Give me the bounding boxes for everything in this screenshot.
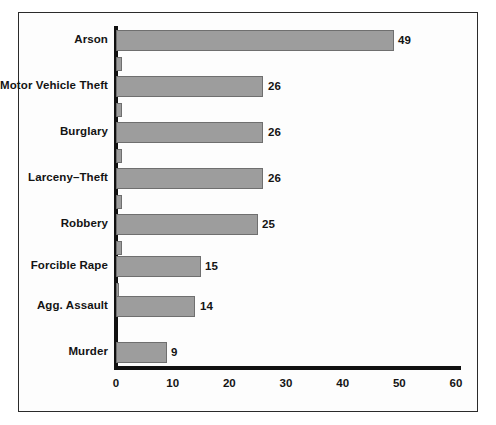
bar-robbery[interactable] (116, 214, 258, 235)
x-axis-tick-labels: 0 10 20 30 40 50 60 (0, 378, 496, 398)
bar-burglary[interactable] (116, 122, 263, 143)
bar-value-robbery: 25 (262, 219, 275, 231)
bar-motor-vehicle-theft-secondary[interactable] (116, 103, 122, 117)
bar-value-burglary: 26 (268, 127, 281, 139)
x-tick-0: 0 (113, 378, 119, 390)
bar-value-murder: 9 (171, 347, 178, 359)
category-axis-labels: Arson Motor Vehicle Theft Burglary Larce… (20, 0, 108, 425)
bar-larceny-theft[interactable] (116, 168, 263, 189)
x-axis-spine (114, 366, 461, 370)
bar-arson[interactable] (116, 30, 394, 51)
bar-value-arson: 49 (398, 35, 411, 47)
bar-forcible-rape[interactable] (116, 256, 201, 277)
bar-value-forcible-rape: 15 (205, 261, 218, 273)
x-tick-60: 60 (450, 378, 463, 390)
x-tick-10: 10 (166, 378, 179, 390)
bar-value-motor-vehicle-theft: 26 (268, 81, 281, 93)
category-label-burglary: Burglary (60, 126, 108, 138)
plot-area: 49 26 26 26 25 15 14 9 (116, 26, 456, 364)
x-tick-30: 30 (280, 378, 293, 390)
bar-value-agg-assault: 14 (200, 301, 213, 313)
bar-burglary-secondary[interactable] (116, 149, 122, 163)
bar-motor-vehicle-theft[interactable] (116, 76, 263, 97)
category-label-forcible-rape: Forcible Rape (31, 260, 108, 272)
chart-figure: Arson Motor Vehicle Theft Burglary Larce… (0, 0, 496, 425)
category-label-robbery: Robbery (61, 218, 108, 230)
bar-larceny-theft-secondary[interactable] (116, 195, 122, 209)
x-tick-20: 20 (223, 378, 236, 390)
x-tick-40: 40 (336, 378, 349, 390)
category-label-arson: Arson (74, 34, 108, 46)
bar-value-larceny-theft: 26 (268, 173, 281, 185)
category-label-murder: Murder (68, 346, 108, 358)
bar-arson-secondary[interactable] (116, 57, 122, 71)
bar-forcible-rape-secondary[interactable] (116, 283, 119, 297)
category-label-motor-vehicle-theft: Motor Vehicle Theft (0, 80, 108, 92)
category-label-agg-assault: Agg. Assault (37, 300, 108, 312)
bar-murder[interactable] (116, 342, 167, 363)
bar-robbery-secondary[interactable] (116, 241, 122, 255)
category-label-larceny-theft: Larceny–Theft (28, 172, 108, 184)
bar-agg-assault[interactable] (116, 296, 195, 317)
x-tick-50: 50 (393, 378, 406, 390)
